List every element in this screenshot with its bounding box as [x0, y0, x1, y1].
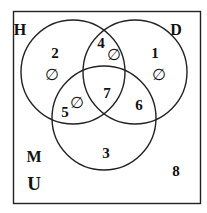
region-number-h-and-d-only: 4: [97, 35, 105, 51]
set-label-h: H: [14, 21, 27, 38]
region-number-d-only: 1: [151, 45, 159, 61]
region-number-outside: 8: [172, 163, 180, 179]
region-number-d-and-m-only: 6: [135, 97, 143, 113]
set-label-d: D: [170, 21, 182, 38]
empty-set-icon: ∅: [152, 65, 166, 84]
empty-set-icon: ∅: [70, 93, 84, 112]
set-label-m: M: [26, 148, 41, 165]
universe-label: U: [27, 173, 41, 194]
region-number-m-only: 3: [102, 145, 110, 161]
empty-set-icon: ∅: [45, 65, 59, 84]
region-number-h-and-m-only: 5: [61, 104, 69, 120]
empty-set-icon: ∅: [107, 45, 121, 64]
region-number-h-d-m: 7: [103, 85, 111, 101]
venn-diagram: HDM2∅4∅1∅75∅638U: [0, 0, 207, 213]
region-number-h-only: 2: [51, 45, 59, 61]
